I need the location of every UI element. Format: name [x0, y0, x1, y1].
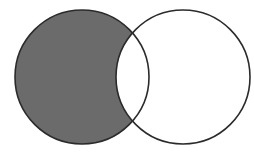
venn-diagram — [0, 0, 254, 157]
